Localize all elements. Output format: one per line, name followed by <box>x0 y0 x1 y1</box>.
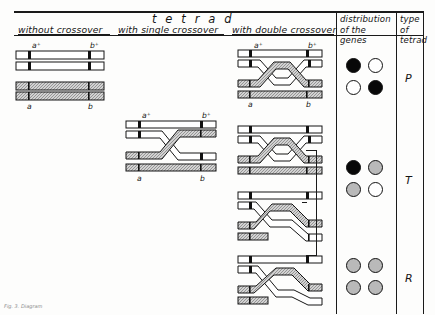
underline-col3 <box>232 34 334 35</box>
gene-label-a-plus: a⁺ <box>254 41 263 50</box>
gene-circle <box>368 182 383 197</box>
header-type: type of tetrad <box>400 14 424 46</box>
gene-circle <box>346 280 361 295</box>
divider-type <box>396 11 397 314</box>
tetrad-type-p: P <box>405 72 412 85</box>
chromatid-diagram-double-crossover-r <box>236 252 330 310</box>
gene-label-a: a <box>27 102 32 111</box>
tetrad-type-r: R <box>405 272 413 285</box>
underline-col2 <box>118 34 224 35</box>
gene-circle <box>368 160 383 175</box>
header-distribution: distribution of the genes <box>340 14 394 46</box>
panel-double-crossover-r <box>236 252 330 310</box>
gene-circle <box>346 160 361 175</box>
chromatid-diagram-double-crossover-p <box>236 42 330 104</box>
figure-caption: Fig. 3. Diagram <box>4 303 42 309</box>
gene-circle <box>346 182 361 197</box>
gene-circle <box>368 80 383 95</box>
gene-label-b-plus: b⁺ <box>308 41 317 50</box>
figure-root: t e t r a d without crossover with singl… <box>0 0 435 315</box>
tetrad-type-t: T <box>405 174 412 187</box>
panel-no-crossover: a⁺ b⁺ a b <box>14 42 110 104</box>
gene-circle <box>346 80 361 95</box>
gene-label-a: a <box>248 100 253 109</box>
tetratype-grouping-bracket <box>306 150 317 256</box>
divider-right-edge <box>423 11 424 314</box>
gene-circle <box>368 258 383 273</box>
gene-label-b: b <box>200 174 205 183</box>
gene-circle <box>346 58 361 73</box>
gene-label-a-plus: a⁺ <box>32 41 41 50</box>
gene-label-a: a <box>137 174 142 183</box>
gene-label-b: b <box>306 100 311 109</box>
gene-label-b: b <box>88 102 93 111</box>
gene-circle <box>368 280 383 295</box>
divider-distribution <box>336 11 337 314</box>
chromatid-diagram-no-crossover <box>14 42 110 104</box>
panel-single-crossover: a⁺ b⁺ a b <box>124 112 224 178</box>
chromatid-diagram-single-crossover <box>124 112 224 178</box>
gene-label-b-plus: b⁺ <box>202 111 211 120</box>
tetratype-bracket-tick <box>302 202 307 203</box>
underline-col1 <box>18 34 110 35</box>
panel-double-crossover-p: a⁺ b⁺ a b <box>236 42 330 104</box>
gene-circle <box>368 58 383 73</box>
gene-label-a-plus: a⁺ <box>142 111 151 120</box>
gene-label-b-plus: b⁺ <box>90 41 99 50</box>
gene-circle <box>346 258 361 273</box>
